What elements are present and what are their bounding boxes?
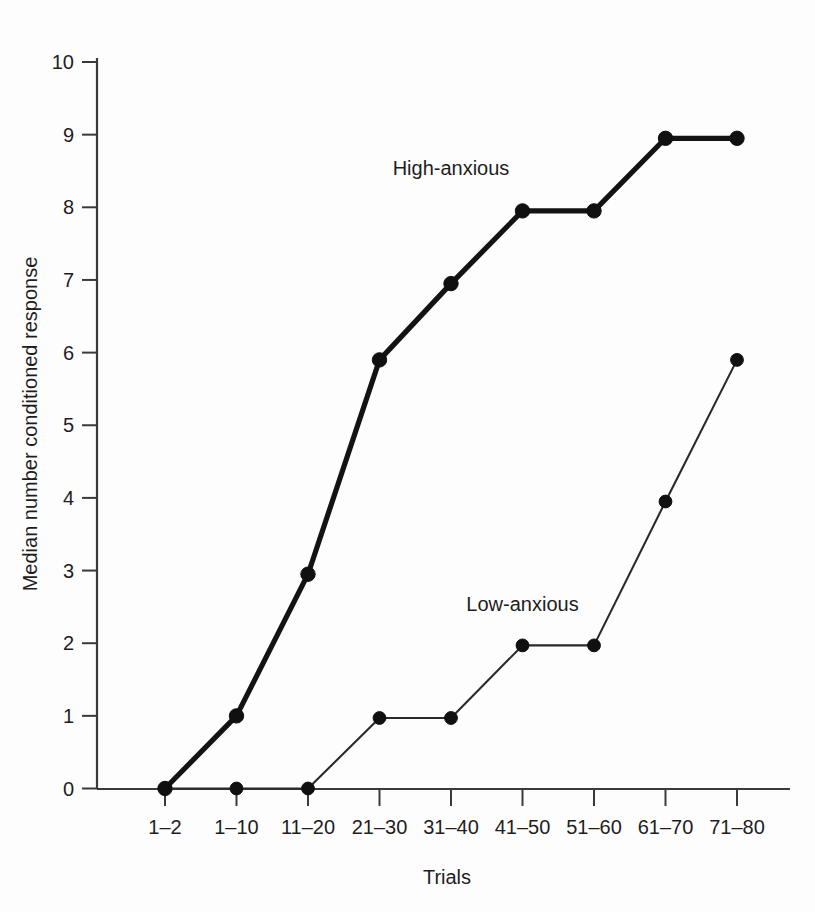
y-axis-ticks: 109876543210 (52, 51, 97, 800)
data-point-marker (516, 639, 529, 652)
line-chart: 109876543210 1–21–1011–2021–3031–4041–50… (0, 0, 815, 912)
y-tick-label: 8 (63, 196, 74, 218)
chart-figure: 109876543210 1–21–1011–2021–3031–4041–50… (0, 0, 815, 912)
x-tick-label: 31–40 (423, 816, 479, 838)
y-tick-label: 9 (63, 124, 74, 146)
data-point-marker (230, 782, 243, 795)
x-tick-label: 1–2 (148, 816, 181, 838)
data-point-marker (302, 782, 315, 795)
y-tick-label: 1 (63, 705, 74, 727)
y-tick-label: 7 (63, 269, 74, 291)
x-axis-title: Trials (423, 866, 471, 888)
y-axis-title: Median number conditioned response (19, 257, 41, 592)
data-point-marker (588, 639, 601, 652)
y-tick-label: 10 (52, 51, 74, 73)
data-point-marker (587, 204, 601, 218)
y-tick-label: 2 (63, 632, 74, 654)
x-tick-label: 51–60 (566, 816, 622, 838)
x-tick-label: 11–20 (281, 816, 335, 838)
data-point-marker (229, 709, 243, 723)
series-label-low-anxious: Low-anxious (466, 593, 578, 615)
y-tick-label: 3 (63, 560, 74, 582)
x-tick-label: 61–70 (638, 816, 694, 838)
x-tick-label: 71–80 (709, 816, 765, 838)
x-tick-label: 1–10 (214, 816, 259, 838)
data-point-marker (445, 712, 458, 725)
series-line-high-anxious (165, 138, 737, 788)
data-point-marker (730, 131, 744, 145)
series-label-high-anxious: High-anxious (393, 157, 510, 179)
data-point-marker (515, 204, 529, 218)
data-point-marker (731, 354, 744, 367)
data-point-marker (658, 131, 672, 145)
series-container (158, 131, 744, 796)
x-tick-label: 41–50 (495, 816, 551, 838)
data-point-marker (372, 353, 386, 367)
data-point-marker (159, 782, 172, 795)
x-tick-label: 21–30 (352, 816, 408, 838)
data-point-marker (659, 495, 672, 508)
x-axis-ticks: 1–21–1011–2021–3031–4041–5051–6061–7071–… (148, 789, 765, 838)
data-point-marker (373, 712, 386, 725)
y-tick-label: 0 (63, 778, 74, 800)
y-tick-label: 4 (63, 487, 74, 509)
y-tick-label: 5 (63, 414, 74, 436)
data-point-marker (301, 567, 315, 581)
y-tick-label: 6 (63, 342, 74, 364)
data-point-marker (444, 276, 458, 290)
